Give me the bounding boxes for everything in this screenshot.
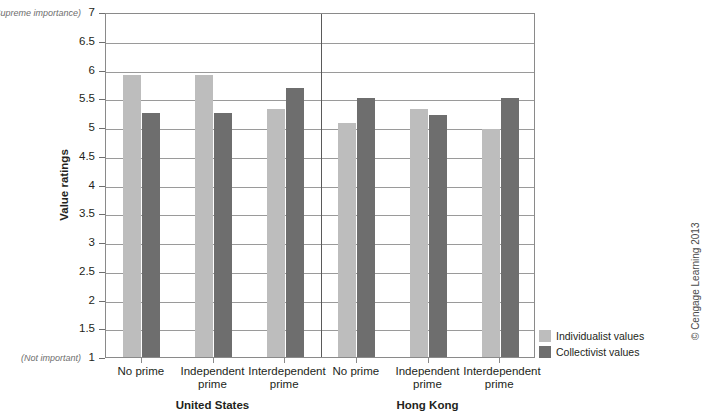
x-axis-tick-label: Interdependent prime	[463, 365, 535, 391]
x-axis-tick-mark	[499, 358, 500, 363]
bar	[267, 109, 285, 357]
y-axis-tick-label: 5.5	[79, 93, 95, 105]
bar	[123, 75, 141, 357]
gridline	[106, 244, 534, 245]
y-axis-tick-label: 1.5	[79, 323, 95, 335]
y-axis-tick-label: 3	[89, 237, 95, 249]
x-axis-tick-mark	[428, 358, 429, 363]
x-axis-tick-label: Independent prime	[177, 365, 249, 391]
x-axis-tick-mark	[356, 358, 357, 363]
bar	[501, 98, 519, 357]
copyright-credit: © Cengage Learning 2013	[690, 223, 701, 340]
group-divider	[321, 14, 322, 357]
y-axis-title: Value ratings	[58, 149, 70, 221]
gridline	[106, 302, 534, 303]
bar	[286, 88, 304, 357]
bar	[429, 115, 447, 357]
bar	[482, 129, 500, 357]
gridline	[106, 72, 534, 73]
gridline	[106, 187, 534, 188]
legend-label-collectivist: Collectivist values	[556, 346, 639, 358]
gridline	[106, 273, 534, 274]
gridline	[106, 215, 534, 216]
legend-item-individualist: Individualist values	[539, 329, 644, 343]
chart-figure: 76.565.554.543.532.521.51 (Supreme impor…	[0, 0, 715, 418]
bar	[338, 123, 356, 357]
bar	[195, 75, 213, 357]
plot-area	[105, 13, 535, 358]
x-axis-tick-label: No prime	[105, 365, 177, 378]
x-axis-tick-mark	[141, 358, 142, 363]
gridline	[106, 129, 534, 130]
y-axis-tick-label: 4.5	[79, 151, 95, 163]
y-axis-tick-label: 7	[89, 7, 95, 19]
bar	[357, 98, 375, 357]
legend-label-individualist: Individualist values	[556, 330, 644, 342]
y-axis-tick-label: 2	[89, 295, 95, 307]
bar	[410, 109, 428, 357]
legend-swatch-icon-individualist	[539, 330, 551, 342]
gridline	[106, 100, 534, 101]
bar	[214, 113, 232, 357]
gridline	[106, 158, 534, 159]
x-axis-tick-mark	[213, 358, 214, 363]
y-axis-tick-label: 6	[89, 65, 95, 77]
gridline	[106, 330, 534, 331]
y-axis-bottom-annotation: (Not important)	[21, 354, 81, 363]
x-axis-tick-mark	[284, 358, 285, 363]
y-axis-tick-label: 5	[89, 122, 95, 134]
y-axis-tick-label: 6.5	[79, 36, 95, 48]
y-axis-tick-mark	[99, 358, 105, 359]
bar	[142, 113, 160, 357]
x-axis-tick-label: Interdependent prime	[248, 365, 320, 391]
y-axis-tick-label: 3.5	[79, 208, 95, 220]
gridline	[106, 43, 534, 44]
x-axis-group-label: United States	[105, 399, 320, 411]
y-axis-top-annotation: (Supreme importance)	[0, 9, 81, 18]
legend: Individualist values Collectivist values	[539, 329, 644, 361]
y-axis-tick-label: 2.5	[79, 266, 95, 278]
legend-swatch-icon-collectivist	[539, 346, 551, 358]
y-axis-tick-label: 1	[89, 352, 95, 364]
x-axis-tick-label: Independent prime	[392, 365, 464, 391]
x-axis-group-label: Hong Kong	[320, 399, 535, 411]
y-axis-tick-label: 4	[89, 180, 95, 192]
x-axis-tick-label: No prime	[320, 365, 392, 378]
legend-item-collectivist: Collectivist values	[539, 345, 644, 359]
